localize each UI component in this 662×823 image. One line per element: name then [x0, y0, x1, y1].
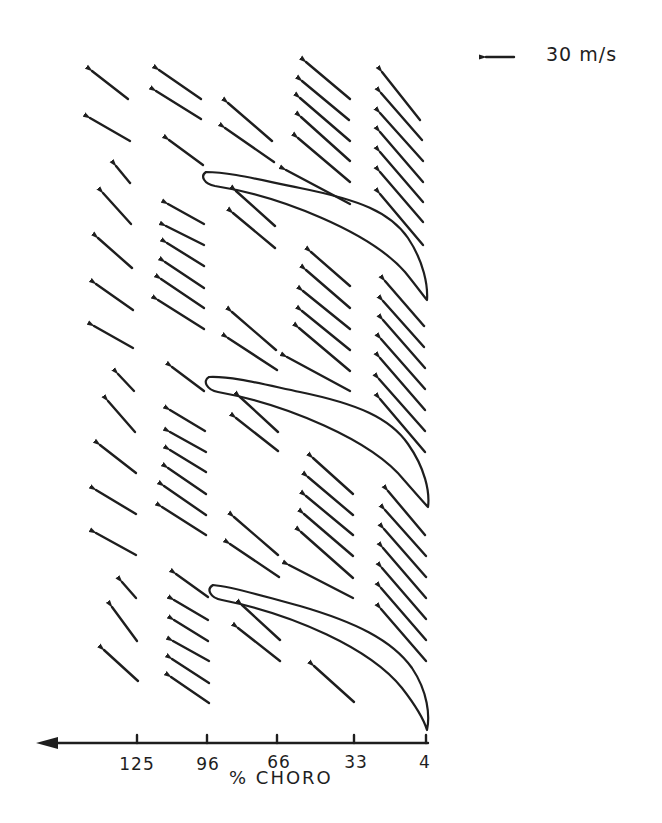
axis-arrowhead-icon — [36, 737, 58, 749]
x-tick-label-33: 33 — [344, 752, 368, 772]
x-axis — [36, 735, 428, 749]
x-axis-title: % CHORO — [229, 767, 333, 788]
x-tick-label-96: 96 — [196, 754, 220, 774]
x-tick-label-125: 125 — [119, 754, 154, 774]
x-tick-label-4: 4 — [419, 752, 431, 772]
vector-field-plot — [0, 0, 662, 823]
scale-label: 30 m/s — [546, 43, 617, 65]
velocity-vector-diagram: 30 m/s 125 96 66 33 4 % CHORO — [0, 0, 662, 823]
